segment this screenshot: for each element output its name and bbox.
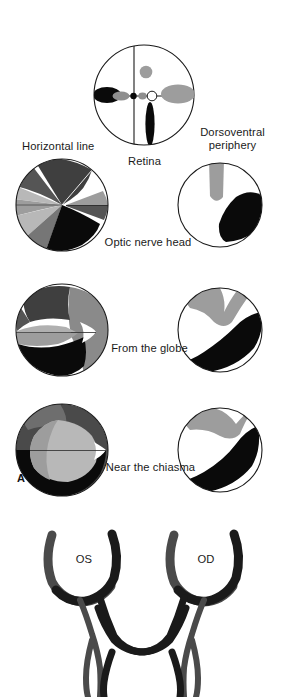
disc-near-chiasma-left — [16, 404, 108, 496]
disc-from-globe-right — [178, 288, 262, 373]
retina-small-gray-dot — [138, 93, 146, 100]
right-optic-tract-gray — [192, 640, 198, 697]
label-near-the-chiasma: Near the chiasma — [88, 461, 213, 474]
retina-papillomacular-gray-blob — [113, 92, 130, 101]
left-optic-tract-gray — [86, 640, 92, 697]
label-dorsoventral-periphery-line2: periphery — [180, 139, 285, 152]
right-optic-tract-dark — [172, 652, 181, 697]
left-optic-tract-dark — [104, 652, 113, 697]
figure-root: Retina Horizontal line Dorsoventral peri… — [0, 0, 289, 697]
retina-ventral-black-ellipse — [145, 102, 154, 146]
disc-from-globe-left — [16, 284, 109, 376]
retina-optic-disc-dot — [130, 93, 136, 99]
label-horizontal-line: Horizontal line — [22, 140, 94, 153]
label-od: OD — [184, 553, 228, 566]
disc-near-chiasma-right — [178, 408, 262, 492]
label-dorsoventral-periphery-line1: Dorsoventral — [180, 126, 285, 139]
retina-fovea-ring — [147, 91, 157, 101]
disc-optic-nerve-head-right — [178, 160, 264, 247]
panel-letter-a: A — [17, 472, 25, 484]
label-os: OS — [62, 553, 106, 566]
retina-nasal-light-gray-blob — [161, 85, 195, 104]
label-optic-nerve-head: Optic nerve head — [88, 236, 208, 249]
label-from-the-globe: From the globe — [92, 342, 207, 355]
retina-dorsal-gray-circle — [140, 66, 153, 79]
region-dorsal-dark — [24, 286, 70, 322]
label-retina: Retina — [0, 155, 289, 168]
